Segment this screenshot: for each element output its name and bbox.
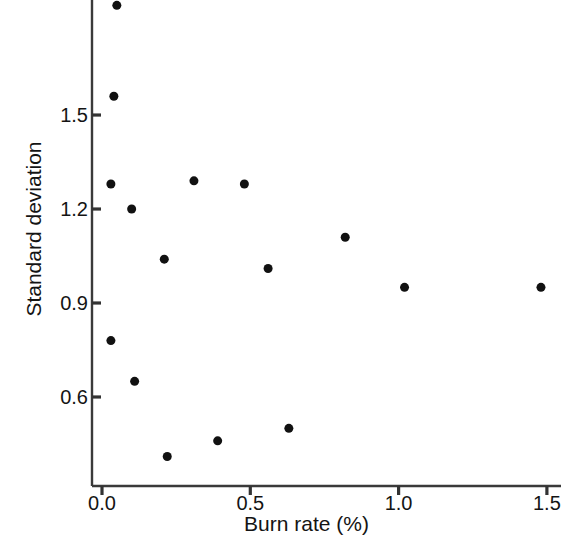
data-point [130, 377, 139, 386]
data-point [109, 92, 118, 101]
data-point [240, 179, 249, 188]
x-axis-title: Burn rate (%) [244, 512, 369, 536]
data-point [341, 233, 350, 242]
data-point [213, 436, 222, 445]
data-point [284, 424, 293, 433]
data-point [106, 336, 115, 345]
y-tick-label: 0.6 [60, 385, 88, 408]
y-tick-label: 1.2 [60, 198, 88, 221]
data-point-group [106, 1, 545, 461]
data-point [264, 264, 273, 273]
data-point [163, 452, 172, 461]
data-point [112, 1, 121, 10]
data-point [106, 179, 115, 188]
y-tick-label: 0.9 [60, 292, 88, 315]
y-axis-title: Standard deviation [22, 141, 46, 316]
data-point [160, 255, 169, 264]
data-point [189, 176, 198, 185]
data-point [127, 205, 136, 214]
x-axis-ticks [102, 486, 547, 495]
data-point [536, 283, 545, 292]
scatter-plot-figure: 0.60.91.21.5 0.00.51.01.5 Standard devia… [0, 0, 565, 541]
plot-canvas [0, 0, 565, 541]
data-point [400, 283, 409, 292]
y-axis-ticks [92, 115, 101, 397]
y-tick-label: 1.5 [60, 104, 88, 127]
x-axis-title-container: Burn rate (%) [0, 512, 565, 536]
y-axis-title-container: Standard deviation [19, 79, 49, 379]
